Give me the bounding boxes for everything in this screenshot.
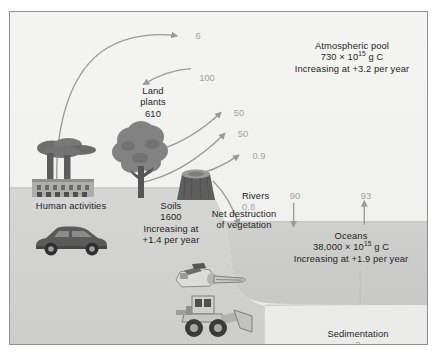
human-activities-label: Human activities	[16, 200, 126, 211]
tree-stump-icon	[170, 164, 222, 202]
oceans-name: Oceans	[268, 230, 427, 241]
land-plants-name-line1: Land	[118, 85, 188, 96]
land-plants-amount: 610	[118, 108, 188, 119]
flux-photosynthesis: 100	[194, 72, 220, 83]
flux-ocean-release: 93	[355, 190, 377, 201]
flux-fossil-fuel-emission: 6	[188, 30, 208, 41]
factory-icon	[26, 135, 102, 199]
atmospheric-pool-label: Atmospheric pool 730 × 1015 g C Increasi…	[282, 40, 422, 74]
figure-frame: Atmospheric pool 730 × 1015 g C Increasi…	[9, 11, 428, 345]
atmospheric-pool-trend: Increasing at +3.2 per year	[282, 63, 422, 74]
oceans-label: Oceans 38,000 × 1015 g C Increasing at +…	[268, 230, 427, 264]
tree-icon	[108, 120, 174, 200]
atmospheric-pool-name: Atmospheric pool	[282, 40, 422, 51]
sedimentation-label: Sedimentation 3	[298, 328, 418, 344]
wheel-loader-icon	[170, 290, 256, 340]
carbon-cycle-scene: Atmospheric pool 730 × 1015 g C Increasi…	[10, 12, 427, 344]
oceans-trend: Increasing at +1.9 per year	[268, 253, 427, 264]
rivers-value: 0.8	[242, 201, 302, 212]
sedimentation-value: 3	[298, 339, 418, 344]
flux-respiration-upper: 50	[228, 107, 250, 118]
car-icon	[32, 224, 110, 256]
land-plants-name-line2: plants	[118, 96, 188, 107]
atmospheric-pool-amount: 730 × 1015 g C	[282, 51, 422, 62]
sedimentation-name: Sedimentation	[298, 328, 418, 339]
chainsaw-icon	[170, 260, 248, 294]
flux-land-use-change: 0.9	[246, 150, 272, 161]
flux-ocean-uptake: 90	[284, 190, 306, 201]
soils-trend-line2: +1.4 per year	[126, 234, 216, 245]
flux-respiration-lower: 50	[232, 128, 254, 139]
land-plants-label: Land plants 610	[118, 85, 188, 119]
oceans-amount: 38,000 × 1015 g C	[268, 241, 427, 252]
